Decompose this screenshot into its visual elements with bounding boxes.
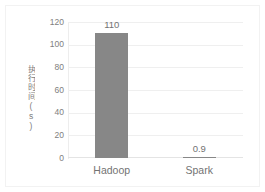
- bar[interactable]: [95, 33, 128, 158]
- bar-value-label: 0.9: [174, 144, 224, 154]
- plot-area: 1100.9: [68, 22, 243, 158]
- gridline: [68, 90, 243, 91]
- gridline: [68, 135, 243, 136]
- bar-chart-figure: 执行时间(s) 020406080100120 1100.9 HadoopSpa…: [0, 0, 265, 192]
- y-tick-label: 20: [38, 131, 64, 140]
- gridline: [68, 157, 243, 158]
- y-tick-label: 0: [38, 154, 64, 163]
- y-axis-tick-labels: 020406080100120: [36, 22, 64, 158]
- y-axis-title: 执行时间(s): [21, 55, 35, 141]
- x-axis-category-labels: HadoopSpark: [68, 164, 243, 180]
- category-label: Spark: [159, 164, 239, 177]
- y-tick-label: 80: [38, 63, 64, 72]
- gridline: [68, 67, 243, 68]
- y-tick-label: 100: [38, 40, 64, 49]
- bar-value-label: 110: [87, 20, 137, 30]
- y-tick-label: 120: [38, 18, 64, 27]
- gridline: [68, 45, 243, 46]
- bar[interactable]: [183, 157, 216, 159]
- category-label: Hadoop: [72, 164, 152, 177]
- y-tick-label: 40: [38, 108, 64, 117]
- gridline: [68, 113, 243, 114]
- y-tick-label: 60: [38, 86, 64, 95]
